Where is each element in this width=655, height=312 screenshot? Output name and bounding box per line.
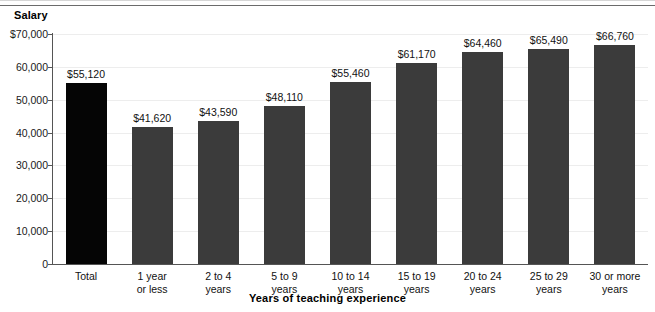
y-axis-tick-labels: 010,00020,00030,00040,00050,00060,000$70… [0, 0, 48, 312]
y-axis-tick-mark [48, 231, 53, 232]
y-axis-tick-label: $70,000 [2, 28, 48, 40]
bar-value-label: $43,590 [199, 106, 237, 118]
bar-value-label: $66,760 [596, 30, 634, 42]
y-axis-tick-label: 0 [2, 258, 48, 270]
bar [594, 45, 635, 264]
y-axis-tick-mark [48, 34, 53, 35]
bar-chart-figure: Salary 010,00020,00030,00040,00050,00060… [0, 0, 655, 312]
y-axis-tick-label: 20,000 [2, 192, 48, 204]
bar-value-label: $55,120 [67, 68, 105, 80]
bar [66, 83, 107, 264]
x-axis-line [52, 264, 648, 265]
y-axis-tick-label: 30,000 [2, 159, 48, 171]
x-axis-title: Years of teaching experience [0, 292, 655, 304]
header-rule-ghost [0, 0, 655, 1]
y-axis-tick-mark [48, 198, 53, 199]
bar-value-label: $64,460 [464, 37, 502, 49]
y-axis-tick-label: 50,000 [2, 94, 48, 106]
bar-value-label: $65,490 [530, 34, 568, 46]
x-axis-category-label: Total [53, 270, 119, 283]
bar-value-label: $55,460 [332, 67, 370, 79]
plot-area: $55,120$41,620$43,590$48,110$55,460$61,1… [53, 34, 648, 264]
y-axis-tick-label: 10,000 [2, 225, 48, 237]
y-axis-tick-mark [48, 264, 53, 265]
y-axis-tick-label: 40,000 [2, 127, 48, 139]
header-rule [0, 5, 655, 6]
y-axis-tick-label: 60,000 [2, 61, 48, 73]
y-axis-tick-mark [48, 165, 53, 166]
bar [396, 63, 437, 264]
bar-value-label: $61,170 [398, 48, 436, 60]
bar-value-label: $48,110 [266, 91, 303, 103]
y-axis-tick-mark [48, 100, 53, 101]
bar [462, 52, 503, 264]
bar [264, 106, 305, 264]
y-axis-tick-mark [48, 133, 53, 134]
bar [198, 121, 239, 264]
bar [528, 49, 569, 264]
bar [132, 127, 173, 264]
bar-value-label: $41,620 [133, 112, 171, 124]
y-axis-tick-mark [48, 67, 53, 68]
bar [330, 82, 371, 264]
